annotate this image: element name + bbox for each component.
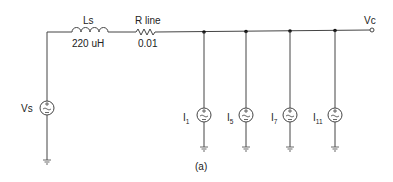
resistor-label: R line	[135, 15, 161, 26]
figure-caption: (a)	[195, 161, 207, 172]
wire-bus	[155, 30, 370, 32]
ground-icon	[331, 147, 339, 151]
ac-current-source-icon	[328, 108, 342, 122]
ac-current-source-icon	[283, 108, 297, 122]
current-source-label-i7: I7	[271, 112, 278, 125]
ac-current-source-icon	[197, 108, 211, 122]
output-label: Vc	[364, 15, 376, 26]
current-source-label-i11: I11	[313, 112, 323, 125]
source-label: Vs	[21, 103, 33, 114]
ground-icon	[200, 147, 208, 151]
current-source-label-i1: I1	[183, 112, 190, 125]
current-source-label-i5: I5	[227, 112, 234, 125]
circuit-diagram: Ls 220 uH R line 0.01 Vc Vs I1 I5 I7 I11…	[0, 0, 393, 182]
output-terminal-icon	[370, 28, 374, 32]
inductor-icon	[72, 28, 108, 33]
branch-i11	[328, 31, 342, 152]
branch-i5	[239, 32, 253, 152]
ground-icon	[242, 147, 250, 151]
branch-i7	[283, 31, 297, 151]
ground-icon	[43, 160, 51, 164]
branch-i1	[197, 32, 211, 151]
ac-current-source-icon	[239, 108, 253, 122]
inductor-label: Ls	[83, 15, 94, 26]
ac-voltage-source-icon	[40, 101, 54, 115]
ground-icon	[286, 147, 294, 151]
resistor-icon	[136, 29, 155, 35]
resistor-value: 0.01	[138, 38, 158, 49]
inductor-value: 220 uH	[72, 38, 104, 49]
